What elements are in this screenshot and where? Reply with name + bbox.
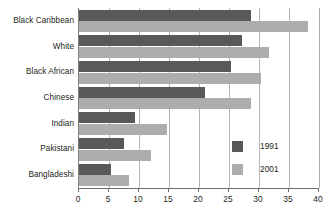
bar-1991-white	[79, 35, 242, 46]
x-axis-tick	[138, 188, 139, 192]
category-label: Black Caribbean	[0, 16, 74, 25]
category-label: Bangladeshi	[0, 170, 74, 179]
x-axis-tick	[78, 188, 79, 192]
x-axis-tick-label: 35	[276, 194, 300, 204]
bar-2001-pakistani	[79, 150, 151, 161]
category-label: Chinese	[0, 93, 74, 102]
legend-swatch-1991	[232, 141, 243, 152]
x-axis-tick	[228, 188, 229, 192]
bar-2001-indian	[79, 124, 167, 135]
x-axis-tick-label: 40	[306, 194, 330, 204]
bar-2001-white	[79, 47, 269, 58]
bar-1991-black-caribbean	[79, 10, 251, 21]
bar-1991-bangladeshi	[79, 164, 111, 175]
legend-item-2001: 2001	[232, 163, 312, 177]
x-axis-tick	[288, 188, 289, 192]
category-label: Indian	[0, 119, 74, 128]
bar-2001-chinese	[79, 98, 251, 109]
x-axis-tick-label: 0	[66, 194, 90, 204]
x-axis-tick-label: 20	[186, 194, 210, 204]
category-label: Black African	[0, 67, 74, 76]
bar-2001-bangladeshi	[79, 175, 129, 186]
chart-legend: 19912001	[232, 140, 312, 184]
legend-swatch-2001	[232, 164, 243, 175]
bar-2001-black-african	[79, 73, 261, 84]
category-label: White	[0, 42, 74, 51]
x-axis-tick-label: 30	[246, 194, 270, 204]
bar-1991-chinese	[79, 87, 205, 98]
x-axis-tick-label: 10	[126, 194, 150, 204]
legend-label: 2001	[260, 164, 279, 175]
category-label: Pakistani	[0, 144, 74, 153]
bar-1991-indian	[79, 112, 135, 123]
x-axis-tick	[108, 188, 109, 192]
bar-2001-black-caribbean	[79, 21, 308, 32]
x-axis-tick	[258, 188, 259, 192]
x-axis-tick-label: 25	[216, 194, 240, 204]
grouped-bar-chart: Black CaribbeanWhiteBlack AfricanChinese…	[0, 0, 332, 218]
bar-1991-black-african	[79, 61, 231, 72]
x-axis-tick	[168, 188, 169, 192]
x-axis-tick-label: 5	[96, 194, 120, 204]
x-axis-tick	[318, 188, 319, 192]
x-axis-tick-label: 15	[156, 194, 180, 204]
bar-1991-pakistani	[79, 138, 124, 149]
x-axis-tick	[198, 188, 199, 192]
legend-label: 1991	[260, 141, 279, 152]
legend-item-1991: 1991	[232, 140, 312, 154]
category-axis-labels: Black CaribbeanWhiteBlack AfricanChinese…	[0, 8, 74, 188]
